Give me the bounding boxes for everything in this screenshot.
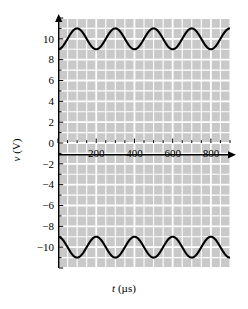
y-axis-label-var: v [10,157,22,162]
y-tick-label: 0 [49,137,55,149]
x-axis-label: t (µs) [0,282,248,294]
figure-container: 200400600800 −10−8−6−4−20246810 v (V) t … [0,0,248,309]
y-tick-label: −8 [42,220,54,232]
y-tick-label: −2 [42,158,54,170]
y-tick-label: −10 [37,241,55,253]
x-axis-label-unit: (µs) [118,282,136,294]
y-axis-label-unit-text: (V) [10,139,22,154]
y-axis-label-unit [10,154,22,157]
y-tick-label: 10 [43,33,55,45]
y-tick-label: 4 [49,95,55,107]
y-tick-label: −6 [42,199,54,211]
y-axis-label: v (V) [6,130,26,180]
y-tick-label: 6 [49,74,55,86]
y-tick-labels: −10−8−6−4−20246810 [37,33,55,253]
x-tick-label: 200 [88,147,105,159]
x-tick-label: 800 [203,147,220,159]
y-tick-label: 2 [49,116,55,128]
waveform-chart: 200400600800 −10−8−6−4−20246810 [0,0,248,309]
x-tick-label: 400 [126,147,143,159]
y-tick-label: 8 [49,53,55,65]
y-tick-label: −4 [42,178,54,190]
x-tick-label: 600 [164,147,181,159]
